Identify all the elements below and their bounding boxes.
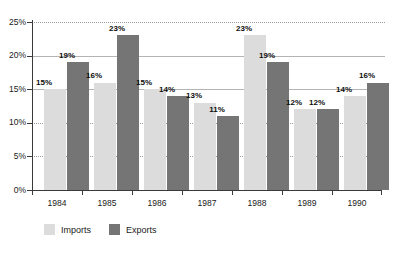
bar-exports-1990 xyxy=(367,83,389,191)
bar-exports-1985 xyxy=(117,35,139,190)
x-tick-0 xyxy=(32,190,33,195)
x-axis-line xyxy=(32,190,382,191)
y-axis-line xyxy=(32,20,33,192)
bar-imports-1984 xyxy=(44,89,66,190)
value-exports-1987: 11% xyxy=(206,105,228,114)
x-axis-label-1988: 1988 xyxy=(234,198,280,208)
y-axis-label-20: 20% xyxy=(0,51,26,60)
x-tick-7 xyxy=(381,190,382,195)
y-tick-25 xyxy=(27,22,32,23)
value-imports-1990: 14% xyxy=(333,85,355,94)
y-tick-10 xyxy=(27,123,32,124)
bar-exports-1987 xyxy=(217,116,239,190)
bar-imports-1985 xyxy=(94,83,116,191)
y-tick-20 xyxy=(27,56,32,57)
y-tick-5 xyxy=(27,156,32,157)
x-tick-2 xyxy=(132,190,133,195)
bar-chart: 25% 20% 15% 10% 5% 0% 1984 1985 1986 198… xyxy=(0,0,400,255)
value-exports-1986: 14% xyxy=(156,85,178,94)
value-imports-1987: 13% xyxy=(183,91,205,100)
bar-imports-1987 xyxy=(194,103,216,190)
y-axis-label-0: 0% xyxy=(0,186,26,195)
chart-legend: Imports Exports xyxy=(44,224,157,235)
value-exports-1990: 16% xyxy=(356,71,378,80)
bar-imports-1986 xyxy=(144,89,166,190)
value-exports-1988: 19% xyxy=(256,51,278,60)
x-axis-label-1990: 1990 xyxy=(334,198,380,208)
value-exports-1985: 23% xyxy=(106,24,128,33)
gridline-25 xyxy=(32,22,385,23)
y-tick-15 xyxy=(27,89,32,90)
bar-exports-1988 xyxy=(267,62,289,190)
x-axis-label-1984: 1984 xyxy=(34,198,80,208)
legend-item-exports: Exports xyxy=(109,224,157,235)
x-tick-3 xyxy=(182,190,183,195)
x-tick-6 xyxy=(332,190,333,195)
gridline-20 xyxy=(32,56,385,57)
legend-label-imports: Imports xyxy=(61,225,91,235)
value-exports-1984: 19% xyxy=(56,51,78,60)
x-tick-5 xyxy=(282,190,283,195)
y-axis-label-15: 15% xyxy=(0,85,26,94)
bar-exports-1989 xyxy=(317,109,339,190)
x-tick-1 xyxy=(82,190,83,195)
legend-swatch-exports-icon xyxy=(109,224,120,235)
legend-label-exports: Exports xyxy=(126,225,157,235)
legend-swatch-imports-icon xyxy=(44,224,55,235)
value-imports-1984: 15% xyxy=(33,78,55,87)
x-axis-label-1985: 1985 xyxy=(84,198,130,208)
bar-exports-1986 xyxy=(167,96,189,190)
y-axis-label-5: 5% xyxy=(0,152,26,161)
legend-item-imports: Imports xyxy=(44,224,91,235)
y-axis-label-25: 25% xyxy=(0,18,26,27)
value-exports-1989: 12% xyxy=(306,98,328,107)
x-axis-label-1989: 1989 xyxy=(284,198,330,208)
bar-imports-1989 xyxy=(294,109,316,190)
bar-imports-1990 xyxy=(344,96,366,190)
x-tick-4 xyxy=(232,190,233,195)
y-axis-label-10: 10% xyxy=(0,118,26,127)
value-imports-1986: 15% xyxy=(133,78,155,87)
value-imports-1989: 12% xyxy=(283,98,305,107)
x-axis-label-1986: 1986 xyxy=(134,198,180,208)
bar-exports-1984 xyxy=(67,62,89,190)
value-imports-1985: 16% xyxy=(83,71,105,80)
x-axis-label-1987: 1987 xyxy=(184,198,230,208)
value-imports-1988: 23% xyxy=(233,24,255,33)
